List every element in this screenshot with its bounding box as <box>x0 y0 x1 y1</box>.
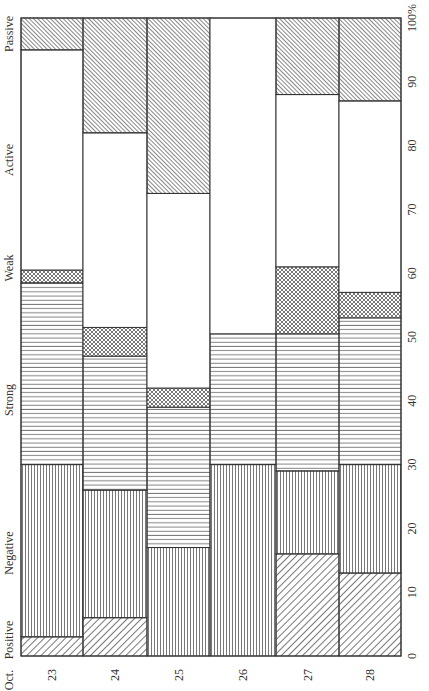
bar-segment-active-28 <box>339 101 401 292</box>
bar-segment-passive-28 <box>339 18 401 101</box>
bar-segment-strong-23 <box>21 283 83 465</box>
bar-segment-negative-27 <box>276 471 339 554</box>
bar-segment-weak-24 <box>83 327 147 356</box>
bar-segment-strong-26 <box>210 334 276 465</box>
bar-segment-active-25 <box>147 193 210 388</box>
bar-segment-active-23 <box>21 50 83 270</box>
value-tick-label: 40 <box>405 395 419 407</box>
chart-canvas: 0102030405060708090100% 232425262728Oct.… <box>0 0 429 691</box>
segment-label-strong: Strong <box>2 384 16 416</box>
bar-segment-negative-25 <box>147 548 210 656</box>
category-label: 27 <box>301 669 315 681</box>
bar-segment-passive-23 <box>21 18 83 50</box>
value-tick-label: 50 <box>405 331 419 343</box>
category-axis: 232425262728Oct. <box>2 669 377 690</box>
bar-segment-positive-24 <box>83 618 147 656</box>
stacked-bar-chart: 0102030405060708090100% 232425262728Oct.… <box>0 0 429 691</box>
segment-label-positive: Positive <box>2 621 16 660</box>
category-label: 25 <box>172 669 186 681</box>
segment-label-passive: Passive <box>2 16 16 52</box>
bar-segment-strong-27 <box>276 334 339 471</box>
value-tick-label: 0 <box>405 653 419 659</box>
category-label: 28 <box>363 669 377 681</box>
segment-label-active: Active <box>2 144 16 176</box>
segment-labels: PositiveNegativeStrongWeakActivePassive <box>2 16 16 659</box>
value-tick-label: 80 <box>405 140 419 152</box>
bar-segment-weak-27 <box>276 267 339 334</box>
value-tick-label: 10 <box>405 586 419 598</box>
bar-segment-weak-28 <box>339 292 401 318</box>
value-tick-label: 100% <box>405 4 419 32</box>
category-label: 23 <box>45 669 59 681</box>
value-tick-label: 20 <box>405 522 419 534</box>
bar-segment-passive-25 <box>147 18 210 193</box>
bar-segment-positive-28 <box>339 573 401 656</box>
bar-segment-weak-23 <box>21 270 83 283</box>
bar-segment-strong-25 <box>147 407 210 547</box>
bar-segment-passive-24 <box>83 18 147 133</box>
category-axis-title: Oct. <box>2 670 16 690</box>
bar-segment-negative-24 <box>83 490 147 618</box>
bar-segment-negative-28 <box>339 465 401 573</box>
value-axis: 0102030405060708090100% <box>405 4 419 659</box>
bar-segment-positive-27 <box>276 554 339 656</box>
bar-segment-active-24 <box>83 133 147 328</box>
bar-segment-active-27 <box>276 95 339 267</box>
bar-segment-negative-23 <box>21 465 83 637</box>
bar-segment-strong-24 <box>83 356 147 490</box>
bar-segment-positive-23 <box>21 637 83 656</box>
value-tick-label: 60 <box>405 267 419 279</box>
bar-segment-active-26 <box>210 18 276 334</box>
value-tick-label: 90 <box>405 76 419 88</box>
value-tick-label: 70 <box>405 203 419 215</box>
bar-segment-passive-27 <box>276 18 339 95</box>
category-label: 26 <box>236 669 250 681</box>
segment-label-negative: Negative <box>2 531 16 574</box>
segment-label-weak: Weak <box>2 254 16 281</box>
bar-segment-negative-26 <box>210 465 276 656</box>
bar-segment-weak-25 <box>147 388 210 407</box>
bars-group <box>21 18 401 656</box>
bar-segment-strong-28 <box>339 318 401 465</box>
value-tick-label: 30 <box>405 459 419 471</box>
category-label: 24 <box>108 669 122 681</box>
